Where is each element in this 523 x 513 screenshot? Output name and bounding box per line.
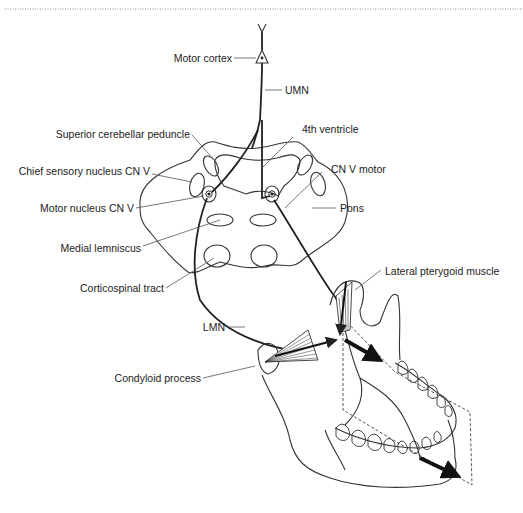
pons-cross-section: [140, 142, 348, 273]
upper-motor-neuron: [252, 24, 268, 148]
label-umn: UMN: [285, 84, 309, 96]
label-motor-nucleus: Motor nucleus CN V: [40, 202, 134, 214]
lateral-pterygoid-upper: [336, 282, 352, 334]
movement-parallelogram: [343, 318, 472, 485]
label-cn-v-motor: CN V motor: [331, 163, 386, 175]
trigeminal-motor-pathway-diagram: Motor cortex UMN Superior cerebellar ped…: [0, 0, 523, 513]
lmn-right: [274, 200, 344, 316]
label-4th-ventricle: 4th ventricle: [302, 123, 359, 135]
motor-nucleus-left: [202, 186, 216, 202]
mandible: [258, 281, 456, 487]
label-corticospinal-tract: Corticospinal tract: [80, 282, 164, 294]
label-medial-lemniscus: Medial lemniscus: [60, 242, 141, 254]
superior-cerebellar-peduncle-left: [200, 153, 221, 178]
medial-lemniscus-right: [250, 214, 276, 226]
corticospinal-tract-right: [251, 245, 277, 267]
teeth: [336, 361, 453, 454]
depression-movement-arrow: [420, 458, 458, 476]
label-lmn: LMN: [203, 321, 225, 333]
label-pons: Pons: [340, 202, 364, 214]
chief-sensory-nucleus-right: [308, 171, 328, 198]
label-superior-cerebellar-peduncle: Superior cerebellar peduncle: [56, 128, 190, 140]
chief-sensory-nucleus-left: [187, 172, 207, 199]
neuron-soma: [256, 50, 268, 63]
label-lateral-pterygoid: Lateral pterygoid muscle: [385, 265, 500, 277]
umn-branch-left: [212, 130, 258, 192]
lateral-pterygoid-lower: [265, 330, 336, 362]
label-motor-cortex: Motor cortex: [174, 52, 233, 64]
motor-nucleus-right: [265, 186, 279, 202]
label-chief-sensory-nucleus: Chief sensory nucleus CN V: [19, 165, 150, 177]
label-condyloid-process: Condyloid process: [115, 372, 201, 384]
